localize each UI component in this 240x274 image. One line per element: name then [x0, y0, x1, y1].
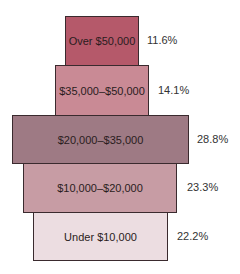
pyramid-bar: $20,000–$35,000: [12, 115, 189, 164]
bar-percent: 22.2%: [177, 230, 208, 242]
pyramid-bar: Under $10,000: [33, 212, 168, 261]
bar-label: $20,000–$35,000: [58, 134, 144, 146]
bar-label: $35,000–$50,000: [59, 85, 145, 97]
bar-label: Under $10,000: [64, 231, 137, 243]
bar-label: Over $50,000: [69, 35, 136, 47]
pyramid-bar: $35,000–$50,000: [55, 65, 149, 116]
bar-percent: 11.6%: [147, 34, 177, 46]
bar-percent: 23.3%: [187, 181, 218, 193]
bar-label: $10,000–$20,000: [57, 182, 143, 194]
pyramid-bar: Over $50,000: [65, 16, 139, 66]
bar-percent: 28.8%: [197, 133, 228, 145]
pyramid-bar: $10,000–$20,000: [23, 163, 177, 213]
bar-percent: 14.1%: [158, 84, 189, 96]
